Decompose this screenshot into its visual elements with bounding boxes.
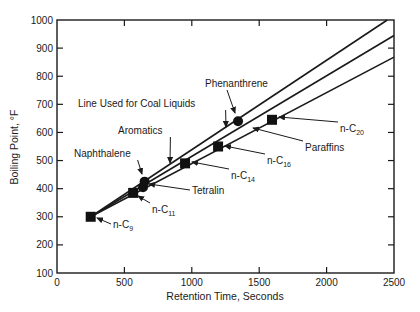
y-tick-label: 900: [36, 43, 53, 54]
point-n-c11-square-marker: [128, 188, 138, 198]
annotation-n-c9-label: n-C9: [113, 219, 133, 232]
point-phenanthrene-circle-marker: [233, 116, 243, 126]
subscript: 9: [129, 225, 133, 232]
x-tick-label: 2000: [315, 277, 338, 288]
annotation-naphthalene-arrow: [138, 160, 142, 174]
subscript: 20: [356, 129, 364, 136]
annotation-n-c14-arrow: [192, 162, 229, 169]
x-tick-label: 0: [54, 277, 60, 288]
annotation-n-c16-arrow: [225, 146, 265, 154]
point-n-c20-square-marker: [267, 115, 277, 125]
y-tick-label: 1000: [31, 15, 54, 26]
y-tick-label: 800: [36, 71, 53, 82]
y-tick-label: 600: [36, 127, 53, 138]
boiling-point-chart: 0500100015002000250010020030040050060070…: [0, 0, 420, 312]
subscript: 16: [283, 161, 291, 168]
annotation-naphthalene-label: Naphthalene: [74, 148, 131, 159]
annotations: PhenanthreneLine Used for Coal LiquidsAr…: [74, 78, 364, 232]
annotation-n-c11-arrow: [138, 196, 150, 203]
x-tick-label: 500: [116, 277, 133, 288]
chart-canvas: 0500100015002000250010020030040050060070…: [0, 0, 420, 312]
x-axis-title: Retention Time, Seconds: [166, 290, 283, 302]
y-tick-label: 100: [36, 268, 53, 279]
annotation-paraffins-arrow: [253, 128, 303, 141]
annotation-line-used-for-coal-liquids-label: Line Used for Coal Liquids: [78, 98, 195, 109]
annotation-n-c11-label: n-C11: [152, 204, 175, 217]
point-n-c14-square-marker: [180, 158, 190, 168]
x-tick-label: 1000: [181, 277, 204, 288]
annotation-n-c16-label: n-C16: [267, 155, 291, 168]
annotation-paraffins-label: Paraffins: [305, 142, 344, 153]
y-tick-label: 400: [36, 183, 53, 194]
point-n-c16-square-marker: [213, 142, 223, 152]
y-tick-label: 300: [36, 211, 53, 222]
data-points: [86, 115, 277, 222]
x-tick-label: 2500: [383, 277, 406, 288]
annotation-n-c9-arrow: [97, 218, 111, 224]
point-naphthalene-circle-marker: [140, 177, 150, 187]
annotation-tetralin-arrow: [149, 184, 190, 190]
point-n-c9-square-marker: [86, 212, 96, 222]
trend-lines: [91, 20, 394, 217]
annotation-phenanthrene-label: Phenanthrene: [205, 78, 268, 89]
annotation-n-c20-arrow: [279, 117, 338, 122]
y-tick-label: 700: [36, 99, 53, 110]
y-tick-label: 200: [36, 239, 53, 250]
annotation-phenanthrene-arrow: [227, 90, 235, 113]
annotation-n-c14-label: n-C14: [231, 170, 255, 183]
y-tick-label: 500: [36, 155, 53, 166]
y-axis-title: Boiling Point, °F: [8, 110, 20, 185]
subscript: 14: [247, 176, 255, 183]
annotation-tetralin-label: Tetralin: [192, 185, 224, 196]
annotation-n-c20-label: n-C20: [340, 123, 364, 136]
x-tick-label: 1500: [248, 277, 271, 288]
subscript: 11: [168, 210, 175, 217]
annotation-aromatics-label: Aromatics: [118, 125, 162, 136]
